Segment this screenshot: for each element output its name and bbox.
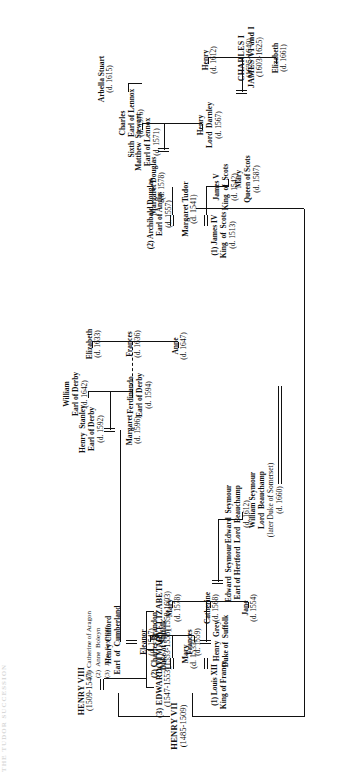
connector [110,392,111,430]
node-eleanor: Eleanor (d. 1547) [140,618,156,666]
tudor-succession-chart: THE TUDOR SUCCESSION HENRY VII (1485-150… [0,0,364,774]
node-elizabeth-bohemia: Elizabeth (d. 1661) [272,32,288,84]
connector [304,209,305,693]
node-margaret-tudor: Margaret Tudor (d. 1541) [182,174,199,244]
connector [164,124,165,150]
connector [172,636,173,658]
connector [120,430,121,642]
connector [206,187,207,215]
node-charles-lennox: CharlesSixth Earl of Lennox(d. 1576) [118,82,145,164]
node-mary-queen-of-scots: MaryQueen of Scots(d. 1587) [234,146,261,212]
connector [228,179,229,187]
node-ferdinando-derby: FerdinandoEarl of Derby(d. 1594) [126,364,153,426]
connector [104,678,146,679]
node-darnley: HenryLord Darnley(d. 1567) [196,94,223,156]
marriage-symbol [100,679,104,690]
connector [192,716,304,717]
chart-title: THE TUDOR SUCCESSION [0,412,12,772]
connector [304,693,305,717]
marriage-symbol [126,640,137,644]
connector [128,84,129,92]
connector [242,512,243,520]
node-elizabeth-derby: Elizabeth (d. 1633) [86,316,102,372]
connector [118,693,119,717]
node-catherine-grey: Catherine (d. 1568) [204,580,220,636]
node-jane-grey: Jane (d. 1554) [242,582,258,634]
node-henry-prince: Henry (d. 1612) [202,36,218,84]
node-henry7: HENRY VII (1485-1509) [170,692,188,760]
node-charles1: CHARLES I (1625-1649) [238,28,255,88]
node-frances-derby: Frances (d. 1636) [126,318,142,370]
connector [192,693,193,717]
marriage-symbol [204,215,208,226]
connector [128,83,142,84]
node-mary-grey: Mary (d. 1578) [166,584,182,632]
node-william-derby: WilliamEarl of Derby(d. 1642) [62,366,89,422]
marriage-symbol-arbella [278,386,282,484]
connector [172,187,173,215]
node-edward-beauchamp: Edward SeymourLord Beauchamp(d. 1612) [224,480,251,548]
marriage-symbol [204,658,208,669]
connector [142,123,202,124]
node-arbella-stuart: Arbella Stuart(d. 1615) [98,48,114,110]
node-anne-derby: Anne (d. 1647) [172,322,188,370]
connector [206,186,228,187]
connector [218,520,219,582]
connector [218,519,242,520]
marriage-symbol [170,658,174,669]
